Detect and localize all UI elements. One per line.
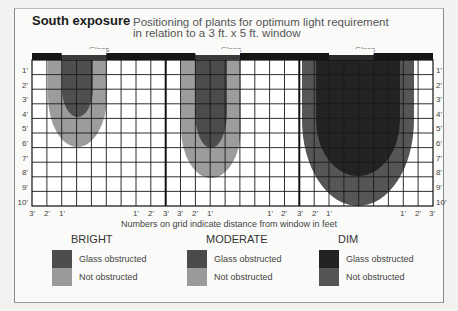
legend-swatch-dim-obstructed: [319, 250, 339, 268]
legend-swatch-moderate-obstructed: [187, 250, 207, 268]
y-label-left-1: 1': [14, 66, 28, 75]
y-label-left-6: 6': [14, 139, 28, 148]
x-label-moderate-left-2: 2': [188, 209, 202, 218]
y-label-left-3: 3': [14, 95, 28, 104]
legend-swatch-bright-obstructed: [52, 250, 72, 268]
x-label-dim-right-3: 3': [425, 209, 439, 218]
y-label-right-5: 5': [436, 124, 450, 133]
x-label-moderate-right-3: 3': [293, 209, 307, 218]
x-label-bright-right-2: 2': [144, 209, 158, 218]
glass-pane-moderate: [195, 55, 240, 60]
y-label-right-10: 10': [436, 198, 450, 207]
x-label-dim-right-1: 1': [396, 209, 410, 218]
x-label-bright-right-1: 1': [129, 209, 143, 218]
glass-pane-bright: [62, 55, 107, 60]
bright-glass-obstructed-zone: [62, 54, 93, 117]
legend-label-moderate-not-obstructed: Not obstructed: [214, 272, 273, 282]
legend-label-moderate-obstructed: Glass obstructed: [214, 254, 282, 264]
window-wall-bar: [32, 49, 433, 60]
x-label-dim-right-2: 2': [411, 209, 425, 218]
legend-heading-bright: BRIGHT: [71, 233, 113, 245]
y-label-left-10: 10': [14, 198, 28, 207]
x-label-dim-left-2: 2': [308, 209, 322, 218]
y-label-left-4: 4': [14, 110, 28, 119]
y-label-right-1: 1': [436, 66, 450, 75]
legend-swatch-moderate-not-obstructed: [187, 268, 207, 286]
legend-swatch-dim-not-obstructed: [319, 268, 339, 286]
legend-label-dim-obstructed: Glass obstructed: [346, 254, 414, 264]
legend-label-dim-not-obstructed: Not obstructed: [346, 272, 405, 282]
glass-pane-dim: [329, 55, 374, 60]
x-label-dim-left-1: 1': [322, 209, 336, 218]
x-label-moderate-left-3: 3': [173, 209, 187, 218]
legend-heading-moderate: MODERATE: [206, 233, 268, 245]
x-label-bright-left-1: 1': [55, 209, 69, 218]
y-label-right-3: 3': [436, 95, 450, 104]
x-label-bright-left-3: 3': [25, 209, 39, 218]
y-label-right-4: 4': [436, 110, 450, 119]
x-label-moderate-left-1: 1': [203, 209, 217, 218]
x-label-moderate-right-1: 1': [263, 209, 277, 218]
y-label-left-9: 9': [14, 183, 28, 192]
x-label-bright-left-2: 2': [40, 209, 54, 218]
x-label-bright-right-3: 3': [159, 209, 173, 218]
y-label-left-5: 5': [14, 124, 28, 133]
axis-caption: Numbers on grid indicate distance from w…: [0, 219, 458, 229]
y-label-right-9: 9': [436, 183, 450, 192]
moderate-glass-obstructed-zone: [195, 54, 227, 148]
legend-heading-dim: DIM: [338, 233, 358, 245]
x-label-moderate-right-2: 2': [277, 209, 291, 218]
y-label-right-7: 7': [436, 154, 450, 163]
y-label-right-8: 8': [436, 168, 450, 177]
y-label-left-7: 7': [14, 154, 28, 163]
legend-label-bright-not-obstructed: Not obstructed: [79, 272, 138, 282]
legend-label-bright-obstructed: Glass obstructed: [79, 254, 147, 264]
y-label-left-8: 8': [14, 168, 28, 177]
y-label-right-2: 2': [436, 81, 450, 90]
y-label-right-6: 6': [436, 139, 450, 148]
y-label-left-2: 2': [14, 81, 28, 90]
legend-swatch-bright-not-obstructed: [52, 268, 72, 286]
